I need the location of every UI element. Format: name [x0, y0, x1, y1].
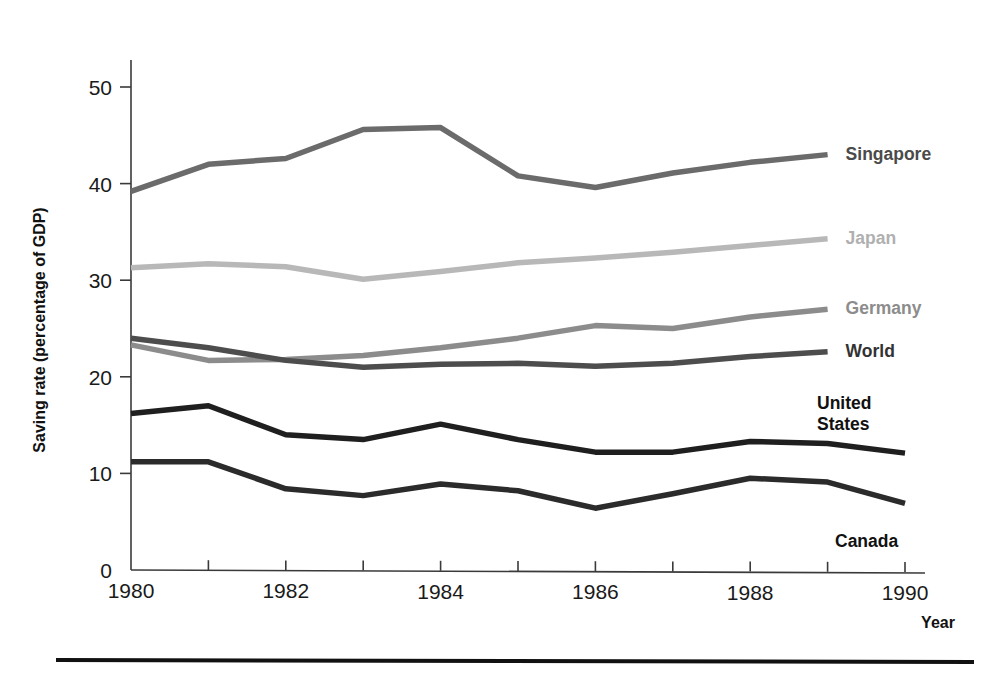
series-label-canada: Canada — [835, 531, 898, 551]
series-label-japan: Japan — [846, 228, 897, 248]
series-label-united-states: UnitedStates — [817, 393, 871, 434]
series-label-text: World — [846, 341, 895, 361]
x-tick-label: 1990 — [882, 581, 929, 604]
series-line-canada — [131, 462, 905, 508]
figure-canvas: Saving rate (percentage of GDP) 01020304… — [0, 0, 988, 677]
y-tick-label: 10 — [89, 462, 112, 485]
x-axis-title-text: Year — [921, 614, 955, 631]
series-line-united-states — [131, 406, 905, 453]
axes — [131, 60, 925, 573]
x-axis-line — [131, 570, 925, 573]
series-line-singapore — [131, 128, 828, 192]
y-tick-label: 20 — [89, 366, 112, 389]
series-label-singapore: Singapore — [846, 144, 932, 164]
y-tick-label: 40 — [89, 173, 112, 196]
x-tick-label: 1986 — [572, 580, 619, 603]
y-axis-title: Saving rate (percentage of GDP) — [31, 207, 48, 452]
series-label-text: Canada — [835, 531, 898, 551]
series-label-germany: Germany — [846, 298, 922, 318]
series-label-group: SingaporeJapanGermanyWorldUnitedStatesCa… — [817, 144, 931, 552]
series-label-text: United — [817, 393, 871, 413]
series-label-text: Singapore — [846, 144, 932, 164]
series-line-japan — [131, 239, 828, 280]
x-axis-ticks: 198019821984198619881990 — [108, 560, 929, 604]
y-tick-label: 50 — [89, 76, 112, 99]
y-axis-ticks: 01020304050 — [89, 76, 131, 582]
x-tick-label: 1980 — [108, 579, 155, 602]
data-series-group — [131, 128, 905, 509]
series-label-text: Japan — [846, 228, 897, 248]
y-tick-label: 30 — [89, 269, 112, 292]
bottom-divider-rule — [56, 660, 974, 662]
x-tick-label: 1988 — [727, 581, 774, 604]
series-label-text: Germany — [846, 298, 922, 318]
series-label-text: States — [817, 414, 870, 434]
line-chart: Saving rate (percentage of GDP) 01020304… — [0, 0, 988, 677]
y-axis-title-text: Saving rate (percentage of GDP) — [31, 207, 48, 452]
x-tick-label: 1982 — [262, 579, 309, 602]
x-tick-label: 1984 — [417, 580, 464, 603]
series-label-world: World — [846, 341, 895, 361]
